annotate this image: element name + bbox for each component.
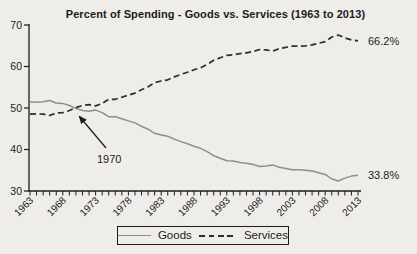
services-line <box>30 35 358 116</box>
y-tick-label: 60 <box>10 60 22 72</box>
services-end-label: 66.2% <box>368 35 399 47</box>
services-line-sample <box>199 235 237 237</box>
goods-line <box>30 101 358 182</box>
x-tick-label: 2003 <box>274 194 298 218</box>
y-tick-label: 40 <box>10 143 22 155</box>
legend-label-goods: Goods <box>158 230 192 242</box>
y-tick-label: 30 <box>10 185 22 197</box>
x-tick-label: 1978 <box>110 194 134 218</box>
goods-end-label: 33.8% <box>368 169 399 181</box>
x-tick-label: 1998 <box>242 194 266 218</box>
x-tick-label: 1968 <box>45 194 69 218</box>
x-tick-label: 2013 <box>340 194 364 218</box>
x-tick-label: 1993 <box>209 194 233 218</box>
x-tick-label: 1963 <box>12 194 36 218</box>
goods-line-sample <box>118 235 151 237</box>
y-tick-label: 70 <box>10 19 22 31</box>
legend: Goods Services <box>117 226 289 245</box>
annotation-label: 1970 <box>97 153 121 165</box>
x-tick-label: 2008 <box>307 194 331 218</box>
legend-label-services: Services <box>244 230 288 242</box>
y-tick-label: 50 <box>10 102 22 114</box>
chart-figure: Percent of Spending - Goods vs. Services… <box>0 0 417 254</box>
x-tick-label: 1983 <box>143 194 167 218</box>
x-tick-label: 1973 <box>78 194 102 218</box>
plot-area: 3040506070196319681973197819831988199319… <box>0 0 417 254</box>
annotation-arrow <box>79 117 106 149</box>
x-tick-label: 1988 <box>176 194 200 218</box>
